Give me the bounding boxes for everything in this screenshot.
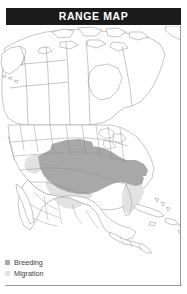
frame-bottom-rule bbox=[5, 285, 182, 286]
legend-item-breeding: Breeding bbox=[5, 258, 105, 267]
page-title: RANGE MAP bbox=[59, 11, 129, 22]
legend-label-migration: Migration bbox=[14, 269, 44, 278]
map-svg bbox=[0, 26, 181, 254]
range-map-header: RANGE MAP bbox=[6, 8, 181, 25]
square-swatch-icon bbox=[5, 260, 10, 265]
legend-label-breeding: Breeding bbox=[14, 258, 43, 267]
north-america-map bbox=[0, 26, 181, 254]
map-legend: Breeding Migration bbox=[5, 258, 105, 280]
range-map-card: RANGE MAP bbox=[0, 0, 187, 294]
legend-item-migration: Migration bbox=[5, 269, 105, 278]
square-swatch-icon bbox=[5, 271, 10, 276]
frame-right-rule bbox=[180, 26, 181, 285]
